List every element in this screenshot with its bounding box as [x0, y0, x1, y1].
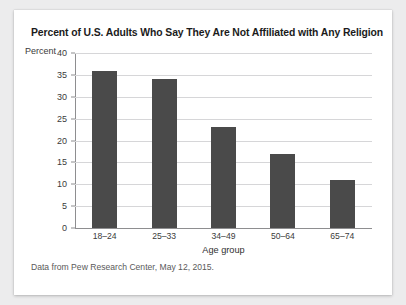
x-axis-tick-label: 50–64	[271, 231, 295, 241]
plot-area	[75, 53, 372, 228]
bar	[330, 180, 355, 228]
y-axis-tick-label: 20	[57, 136, 67, 146]
y-axis-tick-label: 15	[57, 157, 67, 167]
y-axis-tick-labels: 0510152025303540	[14, 53, 71, 228]
y-axis-tick-label: 30	[57, 92, 67, 102]
x-axis-title: Age group	[75, 245, 372, 255]
y-axis-tick-label: 25	[57, 114, 67, 124]
bar	[92, 71, 117, 229]
y-axis-tick-label: 10	[57, 179, 67, 189]
bar	[270, 154, 295, 228]
y-axis-tick-label: 35	[57, 70, 67, 80]
plot-wrapper: Percent 0510152025303540 18–2425–3334–49…	[14, 44, 392, 244]
chart-title: Percent of U.S. Adults Who Say They Are …	[31, 27, 379, 38]
x-axis-tick-label: 34–49	[212, 231, 236, 241]
gridline	[75, 228, 372, 229]
y-axis-tick-label: 0	[62, 223, 67, 233]
bar	[152, 79, 177, 228]
bar	[211, 127, 236, 228]
y-axis-tick-label: 5	[62, 201, 67, 211]
x-axis-tick-label: 18–24	[93, 231, 117, 241]
x-axis-tick-label: 25–33	[152, 231, 176, 241]
x-axis-tick-label: 65–74	[330, 231, 354, 241]
chart-card: Percent of U.S. Adults Who Say They Are …	[14, 10, 392, 295]
y-axis-tick-label: 40	[57, 48, 67, 58]
source-note: Data from Pew Research Center, May 12, 2…	[31, 262, 214, 272]
x-axis-tick-labels: 18–2425–3334–4950–6465–74	[75, 231, 372, 245]
bar-series	[75, 53, 372, 228]
